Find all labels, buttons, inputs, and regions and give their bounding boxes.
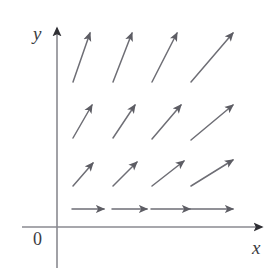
field-arrow bbox=[73, 105, 92, 138]
axes-group bbox=[22, 28, 262, 268]
field-arrow bbox=[152, 161, 184, 186]
field-arrow bbox=[113, 33, 132, 82]
field-arrow bbox=[191, 105, 233, 140]
field-arrow bbox=[191, 33, 233, 82]
field-arrow bbox=[152, 105, 181, 139]
direction-field-figure: y x 0 bbox=[0, 0, 278, 273]
field-arrow bbox=[191, 160, 233, 186]
field-arrow bbox=[113, 162, 137, 186]
field-arrow bbox=[73, 33, 90, 82]
field-arrow bbox=[73, 163, 93, 186]
x-axis-label: x bbox=[252, 238, 260, 257]
origin-label: 0 bbox=[33, 230, 42, 248]
vector-arrows-group bbox=[72, 33, 233, 209]
y-axis-label: y bbox=[33, 24, 41, 43]
field-arrow bbox=[113, 105, 135, 138]
field-arrow bbox=[152, 33, 177, 82]
